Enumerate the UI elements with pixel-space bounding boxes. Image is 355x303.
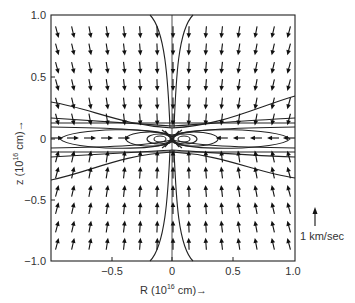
arrow-head-icon [187, 50, 192, 55]
arrow-head-icon [88, 221, 93, 226]
arrow-head-icon [88, 238, 93, 243]
arrow-head-icon [204, 150, 209, 155]
arrow-head-icon [271, 151, 275, 156]
arrow-head-icon [171, 86, 176, 91]
arrow-head-icon [236, 50, 241, 55]
x-tick-label: 0 [169, 265, 175, 277]
arrow-head-icon [233, 136, 238, 141]
arrow-head-icon [74, 136, 79, 141]
arrow-head-icon [122, 185, 127, 190]
arrow-head-icon [204, 166, 209, 171]
arrow-head-icon [219, 33, 224, 38]
arrow-head-icon [55, 68, 59, 73]
scale-arrow [313, 207, 318, 226]
arrow-head-icon [105, 202, 110, 207]
arrow-head-icon [122, 50, 127, 55]
arrow-head-icon [204, 86, 209, 91]
arrow-head-icon [236, 221, 241, 226]
x-tick-label: 0.5 [225, 265, 240, 277]
arrow-head-icon [171, 33, 176, 38]
arrow-head-icon [286, 185, 290, 190]
arrow-head-icon [88, 104, 93, 109]
arrow-head-icon [219, 202, 224, 207]
arrow-head-icon [254, 221, 259, 226]
arrow-head-icon [254, 50, 259, 55]
arrow-head-icon [171, 185, 176, 190]
arrow-head-icon [138, 221, 143, 226]
arrow-head-icon [271, 185, 275, 190]
arrow-head-icon [71, 86, 75, 91]
arrow-head-icon [71, 221, 75, 226]
arrow-head-icon [122, 202, 127, 207]
arrow-head-icon [236, 33, 241, 38]
arrow-head-icon [55, 50, 59, 55]
arrow-head-icon [254, 185, 259, 190]
arrow-head-icon [286, 238, 290, 243]
arrow-head-icon [271, 33, 275, 38]
arrow-head-icon [171, 238, 176, 243]
arrow-head-icon [236, 104, 241, 109]
arrow-head-icon [204, 202, 209, 207]
arrow-head-icon [271, 104, 275, 109]
arrow-head-icon [219, 50, 224, 55]
arrow-head-icon [108, 136, 113, 141]
arrow-head-icon [171, 221, 176, 226]
arrow-head-icon [88, 50, 93, 55]
arrow-head-icon [155, 185, 160, 190]
arrow-head-icon [219, 238, 224, 243]
arrow-head-icon [187, 221, 192, 226]
arrow-head-icon [55, 185, 59, 190]
arrow-head-icon [204, 185, 209, 190]
arrow-head-icon [187, 69, 192, 74]
arrow-head-icon [236, 151, 241, 156]
arrow-head-icon [286, 85, 290, 90]
arrow-head-icon [204, 50, 209, 55]
y-tick-label: 0 [40, 133, 46, 145]
arrow-head-icon [138, 69, 143, 74]
arrow-head-icon [204, 104, 209, 109]
arrow-head-icon [138, 50, 143, 55]
arrow-head-icon [155, 166, 160, 171]
arrow-head-icon [204, 238, 209, 243]
arrow-head-icon [236, 238, 241, 243]
x-tick-marks [112, 257, 233, 261]
arrow-head-icon [219, 185, 224, 190]
arrow-head-icon [155, 104, 160, 109]
x-axis-label: R (1016 cm)→ [140, 283, 207, 296]
arrow-head-icon [236, 86, 241, 91]
arrow-head-icon [271, 50, 275, 55]
arrow-head-icon [88, 33, 93, 38]
arrow-head-icon [105, 69, 110, 74]
arrow-head-icon [254, 151, 259, 156]
arrow-head-icon [286, 104, 290, 109]
arrow-head-icon [71, 202, 75, 207]
arrow-head-icon [138, 238, 143, 243]
vector-field-plot: 1.0 0.5 0 −0.5 −1.0 −0.5 0 0.5 1.0 R (10… [0, 0, 355, 303]
arrow-head-icon [267, 136, 272, 141]
arrow-head-icon [88, 202, 93, 207]
arrow-head-icon [71, 185, 75, 190]
arrow-head-icon [55, 104, 59, 109]
arrow-head-icon [271, 221, 275, 226]
arrow-head-icon [155, 202, 160, 207]
y-tick-label: −0.5 [24, 194, 46, 206]
arrow-head-icon [286, 33, 290, 38]
arrow-head-icon [187, 202, 192, 207]
arrow-head-icon [286, 68, 290, 73]
scale-label: 1 km/sec [300, 230, 345, 242]
y-tick-label: 0.5 [31, 71, 46, 83]
arrow-head-icon [138, 202, 143, 207]
arrow-head-icon [105, 238, 110, 243]
arrow-head-icon [138, 185, 143, 190]
arrow-head-icon [187, 238, 192, 243]
arrow-head-icon [71, 151, 75, 156]
arrow-head-icon [71, 33, 75, 38]
arrow-head-icon [254, 202, 259, 207]
arrow-head-icon [122, 238, 127, 243]
y-tick-label: 1.0 [31, 9, 46, 21]
arrow-head-icon [155, 33, 160, 38]
arrow-head-icon [55, 238, 59, 243]
arrow-head-icon [105, 50, 110, 55]
arrow-head-icon [138, 86, 143, 91]
arrow-head-icon [271, 167, 275, 172]
